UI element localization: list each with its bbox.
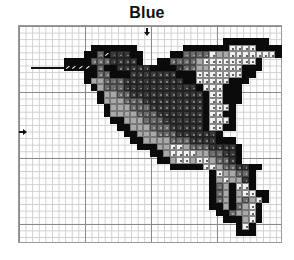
stitch-cell: [203, 98, 210, 105]
stitch-cell: [196, 157, 203, 164]
stitch-cell: [256, 45, 263, 52]
stitch-cell: [256, 216, 263, 223]
stitch-cell: [223, 157, 230, 164]
stitch-cell: [209, 91, 216, 98]
stitch-cell: [190, 58, 197, 65]
stitch-cell: [203, 78, 210, 85]
stitch-cell: [91, 51, 98, 58]
stitch-cell: [163, 131, 170, 138]
stitch-cell: [249, 177, 256, 184]
stitch-cell: [196, 150, 203, 157]
stitch-cell: [262, 190, 269, 197]
stitch-cell: [209, 78, 216, 85]
stitch-cell: [176, 51, 183, 58]
eye-stitch: [104, 51, 111, 58]
stitch-cell: [242, 51, 249, 58]
stitch-cell: [275, 45, 282, 52]
stitch-cell: [223, 164, 230, 171]
stitch-cell: [117, 51, 124, 58]
stitch-cell: [229, 203, 236, 210]
stitch-cell: [256, 58, 263, 65]
stitch-cell: [143, 111, 150, 118]
stitch-cell: [163, 71, 170, 78]
stitch-cell: [190, 131, 197, 138]
stitch-cell: [229, 157, 236, 164]
stitch-cell: [242, 190, 249, 197]
stitch-cell: [216, 131, 223, 138]
stitch-cell: [190, 157, 197, 164]
stitch-cell: [203, 131, 210, 138]
stitch-cell: [176, 71, 183, 78]
stitch-cell: [249, 216, 256, 223]
stitch-cell: [183, 137, 190, 144]
stitch-cell: [71, 58, 78, 65]
stitch-cell: [130, 71, 137, 78]
stitch-cell: [269, 45, 276, 52]
stitch-cell: [229, 170, 236, 177]
stitch-cell: [104, 65, 111, 72]
stitch-cell: [196, 137, 203, 144]
stitch-cell: [236, 78, 243, 85]
stitch-cell: [242, 223, 249, 230]
stitch-cell: [157, 58, 164, 65]
stitch-cell: [117, 58, 124, 65]
stitch-cell: [262, 45, 269, 52]
stitch-cell: [216, 117, 223, 124]
stitch-cell: [130, 137, 137, 144]
stitch-cell: [242, 230, 249, 237]
stitch-cell: [196, 117, 203, 124]
stitch-cell: [163, 58, 170, 65]
stitch-cell: [91, 84, 98, 91]
stitch-cell: [229, 91, 236, 98]
stitch-cell: [163, 111, 170, 118]
stitch-cell: [229, 210, 236, 217]
stitch-cell: [229, 45, 236, 52]
stitch-cell: [163, 117, 170, 124]
stitch-cell: [236, 71, 243, 78]
stitch-cell: [163, 98, 170, 105]
stitch-cell: [203, 71, 210, 78]
pattern-title: Blue: [0, 4, 294, 22]
stitch-cell: [170, 117, 177, 124]
stitch-cell: [236, 144, 243, 151]
stitch-cell: [249, 190, 256, 197]
stitch-cell: [130, 45, 137, 52]
stitch-cell: [143, 84, 150, 91]
stitch-cell: [216, 78, 223, 85]
stitch-cell: [97, 58, 104, 65]
stitch-cell: [124, 91, 131, 98]
stitch-cell: [223, 137, 230, 144]
stitch-cell: [209, 98, 216, 105]
stitch-cell: [137, 144, 144, 151]
stitch-cell: [104, 84, 111, 91]
stitch-cell: [137, 131, 144, 138]
stitch-cell: [196, 78, 203, 85]
stitch-cell: [209, 117, 216, 124]
stitch-cell: [229, 98, 236, 105]
stitch-cell: [216, 137, 223, 144]
stitch-cell: [256, 51, 263, 58]
stitch-cell: [176, 131, 183, 138]
stitch-cell: [223, 117, 230, 124]
stitch-cell: [236, 223, 243, 230]
stitch-cell: [223, 71, 230, 78]
stitch-cell: [124, 98, 131, 105]
stitch-cell: [229, 197, 236, 204]
stitch-cell: [196, 71, 203, 78]
stitch-cell: [170, 58, 177, 65]
beak-stitch: [84, 65, 91, 72]
stitch-cell: [91, 45, 98, 52]
stitch-cell: [163, 144, 170, 151]
stitch-cell: [262, 51, 269, 58]
stitch-cell: [170, 104, 177, 111]
stitch-cell: [117, 117, 124, 124]
stitch-cell: [249, 203, 256, 210]
stitch-cell: [209, 170, 216, 177]
stitch-cell: [236, 230, 243, 237]
stitch-cell: [229, 65, 236, 72]
stitch-cell: [104, 98, 111, 105]
stitch-cell: [203, 84, 210, 91]
stitch-cell: [203, 117, 210, 124]
stitch-cell: [249, 58, 256, 65]
stitch-cell: [143, 65, 150, 72]
